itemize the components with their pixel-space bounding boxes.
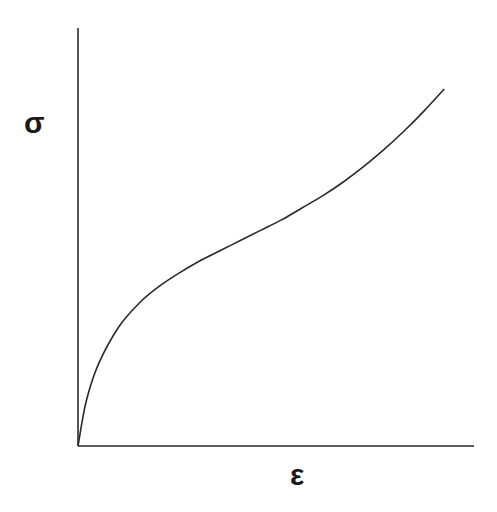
y-axis-label: σ xyxy=(24,108,45,138)
stress-strain-curve xyxy=(78,89,444,446)
x-axis-label: ε xyxy=(290,460,304,490)
stress-strain-chart xyxy=(0,0,497,512)
